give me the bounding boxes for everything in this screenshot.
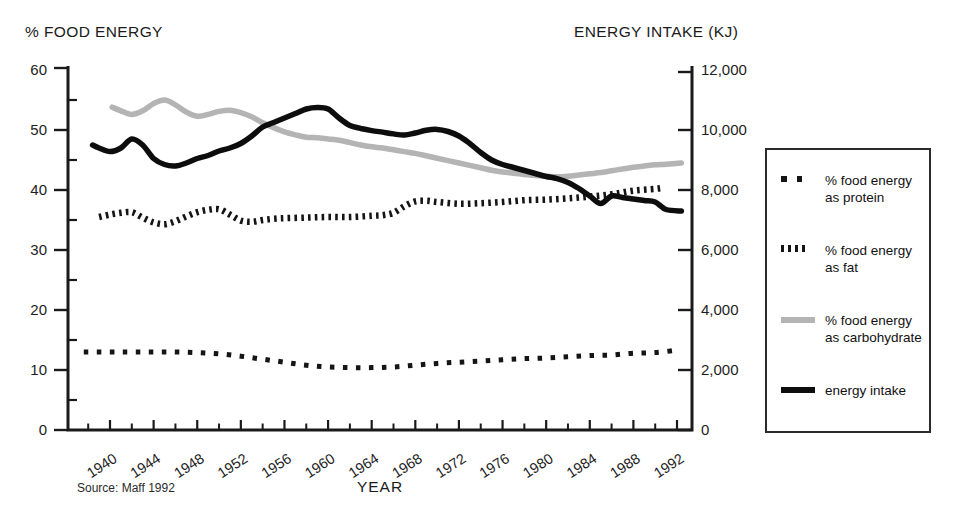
carbohydrate-gray-line-marker-icon [781, 317, 825, 323]
x-tick-label: 1960 [302, 450, 338, 481]
legend-item-protein: % food energy as protein [781, 172, 923, 206]
y-left-tick-label: 60 [30, 61, 47, 78]
y-left-tick-label: 10 [30, 361, 47, 378]
legend-label-protein: % food energy as protein [825, 172, 923, 206]
y-right-tick-label: 6,000 [701, 241, 739, 258]
y-left-tick-label: 50 [30, 121, 47, 138]
x-tick-label: 1964 [346, 450, 382, 481]
legend: % food energy as protein % food energy a… [765, 148, 931, 433]
x-tick-label: 1956 [258, 450, 294, 481]
y-left-tick-label: 0 [39, 421, 47, 438]
y-right-tick-label: 2,000 [701, 361, 739, 378]
x-tick-label: 1968 [389, 450, 425, 481]
y-left-tick-label: 20 [30, 301, 47, 318]
legend-item-energy-intake: energy intake [781, 382, 923, 399]
series-food-energy-as-fat [99, 188, 664, 225]
y-right-tick-label: 12,000 [701, 61, 747, 78]
x-tick-label: 1952 [215, 450, 251, 481]
legend-item-fat: % food energy as fat [781, 242, 923, 276]
chart-figure: % FOOD ENERGY ENERGY INTAKE (KJ) 0102030… [0, 0, 962, 531]
legend-label-fat: % food energy as fat [825, 242, 923, 276]
series-food-energy-as-protein [84, 350, 677, 367]
y-right-tick-label: 4,000 [701, 301, 739, 318]
x-tick-label: 1980 [520, 450, 556, 481]
x-tick-label: 1984 [564, 450, 600, 481]
x-tick-label: 1944 [127, 450, 163, 481]
y-right-tick-label: 0 [701, 421, 709, 438]
x-tick-label: 1948 [171, 450, 207, 481]
protein-dotted-marker-icon [781, 176, 825, 182]
legend-label-carbohydrate: % food energy as carbohydrate [825, 312, 923, 346]
series-food-energy-as-carbohydrate [112, 100, 681, 177]
y-right-tick-label: 8,000 [701, 181, 739, 198]
legend-item-carbohydrate: % food energy as carbohydrate [781, 312, 923, 346]
y-left-tick-label: 40 [30, 181, 47, 198]
series-energy-intake [93, 107, 682, 211]
legend-label-energy-intake: energy intake [825, 382, 906, 399]
fat-dashed-marker-icon [781, 245, 825, 252]
y-right-tick-label: 10,000 [701, 121, 747, 138]
x-tick-label: 1988 [607, 450, 643, 481]
x-tick-label: 1992 [651, 450, 687, 481]
plot-area: 010203040506002,0004,0006,0008,00010,000… [0, 0, 760, 531]
axes-frame [68, 66, 692, 430]
x-tick-label: 1940 [84, 450, 120, 481]
energy-intake-black-line-marker-icon [781, 387, 825, 393]
source-note: Source: Maff 1992 [77, 481, 175, 495]
x-tick-label: 1972 [433, 450, 469, 481]
x-tick-label: 1976 [476, 450, 512, 481]
y-left-tick-label: 30 [30, 241, 47, 258]
